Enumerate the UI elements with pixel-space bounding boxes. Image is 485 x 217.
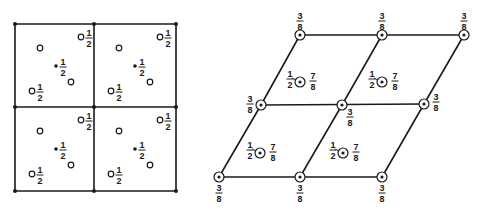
atom-center-dot-icon	[298, 175, 301, 178]
interior-atom: 1278	[287, 69, 317, 92]
fraction-numerator: 3	[297, 183, 302, 193]
height-label: 12	[86, 111, 93, 132]
fraction-numerator: 1	[165, 28, 170, 38]
center-atom-icon	[54, 147, 58, 151]
open-atom-icon	[157, 34, 163, 40]
fraction-numerator: 1	[60, 57, 65, 67]
corner-atom-icon	[174, 105, 178, 109]
height-label: 38	[379, 11, 386, 32]
corner-atom-icon	[92, 189, 96, 193]
fraction-numerator: 1	[37, 82, 42, 92]
fraction-denominator: 2	[86, 122, 91, 132]
fraction-denominator: 8	[297, 194, 302, 204]
fraction-numerator: 7	[310, 71, 315, 81]
fraction-denominator: 2	[60, 68, 65, 78]
fraction-denominator: 8	[270, 153, 275, 163]
corner-atom-icon	[174, 22, 178, 26]
height-label: 38	[216, 183, 223, 204]
fraction-numerator: 1	[60, 140, 65, 150]
lattice-atom: 38	[214, 172, 224, 204]
open-atom-icon	[108, 171, 114, 177]
open-atom-icon	[37, 128, 43, 134]
fraction-numerator: 7	[392, 71, 397, 81]
center-atom-icon	[133, 64, 137, 68]
corner-atom-icon	[13, 22, 17, 26]
atom-center-dot-icon	[340, 103, 343, 106]
open-atom-icon	[157, 117, 163, 123]
height-label: 12	[86, 28, 93, 49]
corner-atom-icon	[13, 189, 17, 193]
atom-center-dot-icon	[298, 80, 301, 83]
crystal-structure-projections: 121212121212121212121212 383838383838383…	[0, 0, 485, 217]
unit-cell: 121212	[29, 111, 92, 186]
fraction-numerator: 1	[139, 57, 144, 67]
fraction-numerator: 1	[369, 69, 374, 79]
fraction-numerator: 3	[433, 92, 438, 102]
atom-center-dot-icon	[341, 151, 344, 154]
square-lattice-diagram: 121212121212121212121212	[13, 22, 178, 193]
height-label: 38	[347, 107, 354, 128]
fraction-denominator: 2	[247, 151, 252, 161]
interior-atom: 1278	[369, 69, 399, 92]
fraction-numerator: 1	[86, 111, 91, 121]
fraction-denominator: 2	[139, 151, 144, 161]
open-atom-icon	[37, 45, 43, 51]
fraction-numerator: 3	[347, 107, 352, 117]
fraction-numerator: 3	[216, 183, 221, 193]
open-atom-icon	[78, 117, 84, 123]
fraction-denominator: 8	[379, 194, 384, 204]
open-atom-icon	[116, 45, 122, 51]
fraction-denominator: 2	[116, 93, 121, 103]
fraction-denominator: 8	[247, 105, 252, 115]
fraction-numerator: 7	[353, 142, 358, 152]
height-label: 12	[60, 57, 67, 78]
height-label-right: 78	[310, 71, 317, 92]
atom-center-dot-icon	[462, 33, 465, 36]
corner-atom-icon	[13, 105, 17, 109]
height-label: 12	[37, 165, 44, 186]
height-label-left: 12	[330, 140, 337, 161]
height-label: 12	[165, 111, 172, 132]
height-label-right: 78	[270, 142, 277, 163]
height-label-left: 12	[369, 69, 376, 90]
height-label: 38	[379, 183, 386, 204]
lattice-atom: 38	[459, 11, 469, 40]
height-label: 12	[37, 82, 44, 103]
fraction-denominator: 2	[139, 68, 144, 78]
unit-cell: 121212	[108, 28, 171, 103]
fraction-numerator: 3	[379, 183, 384, 193]
fraction-denominator: 8	[379, 22, 384, 32]
open-atom-icon	[147, 79, 153, 85]
lattice-atom: 38	[295, 11, 305, 40]
fraction-numerator: 1	[116, 82, 121, 92]
fraction-numerator: 1	[37, 165, 42, 175]
fraction-numerator: 1	[330, 140, 335, 150]
fraction-denominator: 2	[86, 39, 91, 49]
interior-atom: 1278	[330, 140, 360, 163]
fraction-denominator: 8	[353, 153, 358, 163]
fraction-denominator: 2	[165, 122, 170, 132]
atom-center-dot-icon	[258, 151, 261, 154]
fraction-denominator: 8	[216, 194, 221, 204]
height-label: 38	[461, 11, 468, 32]
height-label: 12	[116, 82, 123, 103]
fraction-numerator: 3	[247, 94, 252, 104]
unit-cell: 121212	[29, 28, 92, 103]
atom-center-dot-icon	[380, 80, 383, 83]
lattice-atom: 38	[377, 11, 387, 40]
fraction-denominator: 8	[392, 82, 397, 92]
center-atom-icon	[133, 147, 137, 151]
height-label-right: 78	[353, 142, 360, 163]
fraction-numerator: 3	[461, 11, 466, 21]
height-label: 12	[139, 140, 146, 161]
corner-atom-icon	[174, 189, 178, 193]
fraction-numerator: 3	[297, 11, 302, 21]
open-atom-icon	[108, 88, 114, 94]
atom-center-dot-icon	[298, 33, 301, 36]
fraction-denominator: 2	[330, 151, 335, 161]
center-atom-icon	[54, 64, 58, 68]
fraction-denominator: 8	[461, 22, 466, 32]
fraction-denominator: 8	[297, 22, 302, 32]
corner-atom-icon	[92, 22, 96, 26]
fraction-numerator: 1	[287, 69, 292, 79]
